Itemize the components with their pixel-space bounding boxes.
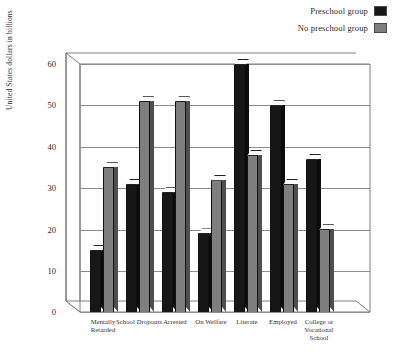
- bar-no-preschool-group-employed: [283, 184, 294, 312]
- y-tick-label: 10: [34, 266, 56, 276]
- gridline-60: [80, 64, 370, 65]
- bar-front-face: [90, 250, 101, 312]
- bar-chart: 0 10 20 30 40 50 60 Mentally RetardedSch…: [0, 0, 415, 357]
- bar-side-face: [330, 229, 334, 307]
- bar-front-face: [319, 229, 330, 312]
- y-tick-label: 50: [34, 100, 56, 110]
- bar-front-face: [126, 184, 137, 312]
- bar-no-preschool-group-college-or-vocational-school: [319, 229, 330, 312]
- bar-front-face: [162, 192, 173, 312]
- bar-front-face: [270, 105, 281, 312]
- bar-front-face: [175, 101, 186, 312]
- y-tick-label: 20: [34, 225, 56, 235]
- bar-side-face: [222, 180, 226, 307]
- bar-front-face: [139, 101, 150, 312]
- bar-front-face: [306, 159, 317, 312]
- bar-no-preschool-group-school-dropouts: [139, 101, 150, 312]
- bar-front-face: [211, 180, 222, 312]
- y-tick-label: 60: [34, 59, 56, 69]
- y-tick-label: 40: [34, 142, 56, 152]
- bar-preschool-group-arrested: [162, 192, 173, 312]
- bar-no-preschool-group-arrested: [175, 101, 186, 312]
- bar-preschool-group-on-welfare: [198, 233, 209, 312]
- bar-preschool-group-college-or-vocational-school: [306, 159, 317, 312]
- bar-front-face: [283, 184, 294, 312]
- bar-side-face: [258, 155, 262, 307]
- bar-preschool-group-literate: [234, 64, 245, 312]
- bar-preschool-group-mentally-retarded: [90, 250, 101, 312]
- bar-front-face: [234, 64, 245, 312]
- y-tick-label: 0: [34, 307, 56, 317]
- bar-side-face: [186, 101, 190, 307]
- gridline-50: [80, 105, 370, 106]
- bar-front-face: [198, 233, 209, 312]
- bar-side-face: [114, 167, 118, 307]
- gridline-0: [80, 312, 370, 313]
- bar-front-face: [247, 155, 258, 312]
- x-axis-label: College or Vocational School: [296, 318, 342, 343]
- bar-preschool-group-school-dropouts: [126, 184, 137, 312]
- y-tick-label: 30: [34, 183, 56, 193]
- bar-no-preschool-group-on-welfare: [211, 180, 222, 312]
- gridline-40: [80, 147, 370, 148]
- bar-front-face: [103, 167, 114, 312]
- y-axis-ticks: 0 10 20 30 40 50 60: [34, 0, 56, 357]
- bar-side-face: [294, 184, 298, 307]
- bar-no-preschool-group-literate: [247, 155, 258, 312]
- bar-no-preschool-group-mentally-retarded: [103, 167, 114, 312]
- bar-preschool-group-employed: [270, 105, 281, 312]
- bar-side-face: [150, 101, 154, 307]
